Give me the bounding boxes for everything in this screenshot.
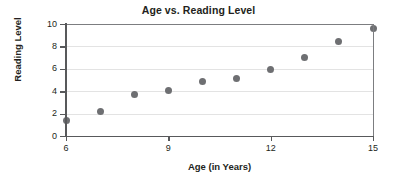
y-axis-line — [65, 23, 67, 137]
scatter-chart: Age vs. Reading Level 0246810 691215 Rea… — [0, 0, 397, 184]
gridline — [66, 114, 373, 115]
plot-area — [66, 24, 373, 136]
x-axis-tick — [168, 136, 169, 141]
x-axis-tick-label: 9 — [158, 144, 178, 153]
chart-title: Age vs. Reading Level — [0, 4, 397, 16]
y-axis-tick — [60, 24, 65, 25]
plot-top-border — [66, 24, 374, 25]
data-point — [131, 91, 138, 98]
y-axis-tick-label: 4 — [39, 87, 57, 96]
data-point — [267, 66, 274, 73]
y-axis-tick — [60, 114, 65, 115]
y-axis-title: Reading Level — [12, 10, 23, 90]
y-axis-tick-label: 0 — [39, 132, 57, 141]
plot-right-border — [373, 24, 374, 137]
gridline — [66, 69, 373, 70]
gridline — [66, 91, 373, 92]
y-axis-tick — [60, 46, 65, 47]
x-axis-tick-label: 12 — [261, 144, 281, 153]
gridlines — [66, 24, 373, 136]
x-axis-tick — [66, 136, 67, 141]
y-axis-tick — [60, 136, 65, 137]
x-axis-title: Age (in Years) — [66, 161, 373, 172]
x-axis-tick-label: 15 — [363, 144, 383, 153]
y-axis-tick-label: 6 — [39, 64, 57, 73]
data-point — [233, 75, 240, 82]
data-point — [97, 108, 104, 115]
y-axis-tick-label: 10 — [39, 20, 57, 29]
y-axis-tick-label: 8 — [39, 42, 57, 51]
y-axis-tick — [60, 69, 65, 70]
data-point — [165, 87, 172, 94]
x-axis-tick-label: 6 — [56, 144, 76, 153]
x-axis-line — [65, 136, 374, 138]
gridline — [66, 46, 373, 47]
y-axis-tick — [60, 91, 65, 92]
y-axis-tick-label: 2 — [39, 109, 57, 118]
x-axis-tick — [271, 136, 272, 141]
x-axis-tick — [373, 136, 374, 141]
